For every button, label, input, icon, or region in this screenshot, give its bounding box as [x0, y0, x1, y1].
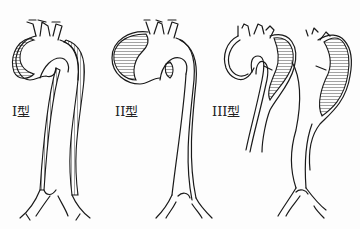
- type-3a-diagram: [225, 24, 296, 152]
- illustration: [0, 0, 360, 229]
- type-1-diagram: [13, 20, 90, 220]
- aortic-dissection-figure: I型 II型 III型: [0, 0, 360, 229]
- type-1-label: I型: [12, 101, 30, 120]
- type-2-label: II型: [115, 101, 138, 120]
- type-3-label: III型: [212, 101, 240, 120]
